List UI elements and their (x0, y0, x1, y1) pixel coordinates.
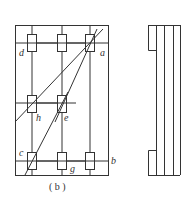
label-a: a (100, 47, 105, 58)
side-view (148, 25, 181, 176)
label-d: d (19, 47, 25, 58)
label-g: g (70, 163, 75, 174)
side-top-notch (149, 25, 157, 51)
figure-caption: ( b ) (49, 181, 66, 193)
diagram-canvas: d a h e c g b ( b ) (0, 0, 191, 203)
label-b: b (111, 155, 116, 166)
label-h: h (36, 112, 41, 123)
front-view-labels: d a h e c g b ( b ) (19, 47, 116, 193)
side-bottom-notch (149, 151, 157, 176)
label-e: e (64, 112, 69, 123)
front-view (15, 25, 109, 176)
label-c: c (19, 147, 24, 158)
